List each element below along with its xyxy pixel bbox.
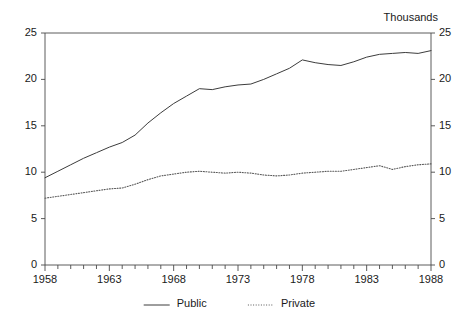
axis-tick-label: 1983 bbox=[349, 273, 385, 285]
axis-tick-label: 1963 bbox=[91, 273, 127, 285]
axis-tick-label: 10 bbox=[0, 165, 37, 177]
y-axis-left-ticks bbox=[41, 33, 45, 265]
axis-tick-label: 10 bbox=[439, 165, 451, 177]
axis-tick-label: 5 bbox=[439, 212, 445, 224]
series-line-public bbox=[45, 51, 431, 178]
legend-label-public[interactable]: Public bbox=[177, 297, 207, 309]
axis-tick-label: 1973 bbox=[220, 273, 256, 285]
axis-tick-label: 1958 bbox=[27, 273, 63, 285]
axis-tick-label: 0 bbox=[439, 258, 445, 270]
data-series-layer bbox=[45, 51, 431, 199]
axis-tick-label: 1988 bbox=[413, 273, 449, 285]
axis-tick-label: 25 bbox=[0, 26, 37, 38]
axis-tick-label: 25 bbox=[439, 26, 451, 38]
axis-tick-label: 15 bbox=[0, 119, 37, 131]
axis-tick-label: 5 bbox=[0, 212, 37, 224]
axis-tick-label: 20 bbox=[439, 72, 451, 84]
x-axis-ticks bbox=[45, 265, 431, 271]
axis-tick-label: 1968 bbox=[156, 273, 192, 285]
axis-tick-label: 15 bbox=[439, 119, 451, 131]
y-axis-right-ticks bbox=[431, 33, 435, 265]
axis-tick-label: 20 bbox=[0, 72, 37, 84]
axis-frame bbox=[45, 33, 431, 265]
axis-tick-label: 0 bbox=[0, 258, 37, 270]
chart-figure: Thousands 0510152025 0510152025 19581963… bbox=[0, 0, 468, 324]
legend-label-private[interactable]: Private bbox=[281, 297, 315, 309]
series-line-private bbox=[45, 164, 431, 198]
axis-tick-label: 1978 bbox=[284, 273, 320, 285]
